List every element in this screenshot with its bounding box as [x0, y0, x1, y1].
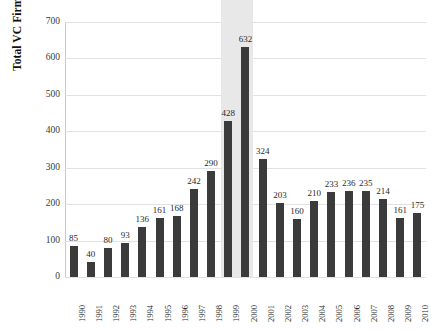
y-tick-label: 300	[20, 163, 60, 173]
bar[interactable]	[207, 171, 215, 277]
bar-slot: 85	[65, 22, 82, 277]
bar-value-label: 242	[187, 177, 201, 186]
bar-value-label: 85	[69, 234, 78, 243]
bar-slot: 324	[254, 22, 271, 277]
bar-value-label: 428	[222, 109, 236, 118]
bar[interactable]	[276, 203, 284, 277]
bar-slot: 203	[271, 22, 288, 277]
bar-value-label: 161	[393, 206, 407, 215]
bar[interactable]	[327, 192, 335, 277]
x-tick-label: 1997	[198, 305, 207, 322]
bar[interactable]	[293, 219, 301, 277]
bar-value-label: 80	[103, 236, 112, 245]
x-tick-label: 1995	[164, 305, 173, 322]
plot-area: 8540809313616116824229042863232420316021…	[65, 22, 426, 277]
bar-value-label: 233	[325, 180, 339, 189]
bar-value-label: 324	[256, 147, 270, 156]
x-tick-label: 2010	[421, 305, 430, 322]
bar-slot: 236	[340, 22, 357, 277]
x-tick-label: 1996	[181, 305, 190, 322]
bar-value-label: 40	[86, 250, 95, 259]
bars-layer: 8540809313616116824229042863232420316021…	[65, 22, 426, 277]
bar-slot: 210	[306, 22, 323, 277]
bar-value-label: 210	[308, 189, 322, 198]
bar-value-label: 161	[153, 206, 167, 215]
y-tick-label: 500	[20, 90, 60, 100]
bar[interactable]	[362, 191, 370, 277]
x-tick-label: 2008	[387, 305, 396, 322]
bar-slot: 175	[409, 22, 426, 277]
x-tick-label: 1992	[112, 305, 121, 322]
x-tick-label: 2002	[284, 305, 293, 322]
bar-slot: 235	[357, 22, 374, 277]
bar-value-label: 160	[290, 207, 304, 216]
bar-value-label: 136	[136, 215, 150, 224]
x-tick-label: 2000	[250, 305, 259, 322]
bar-value-label: 175	[411, 201, 425, 210]
bar-slot: 632	[237, 22, 254, 277]
bar-slot: 136	[134, 22, 151, 277]
x-tick-label: 2006	[353, 305, 362, 322]
bar-value-label: 236	[342, 179, 356, 188]
gridline	[65, 277, 426, 278]
x-tick-label: 2003	[301, 305, 310, 322]
bar[interactable]	[241, 47, 249, 277]
x-tick-label: 2001	[267, 305, 276, 322]
bar[interactable]	[259, 159, 267, 277]
bar[interactable]	[104, 248, 112, 277]
y-tick-label: 0	[20, 272, 60, 282]
x-tick-label: 1990	[78, 305, 87, 322]
bar[interactable]	[396, 218, 404, 277]
bar-slot: 160	[288, 22, 305, 277]
bar[interactable]	[345, 191, 353, 277]
bar[interactable]	[156, 218, 164, 277]
y-tick-label: 200	[20, 199, 60, 209]
bar-slot: 80	[99, 22, 116, 277]
y-tick-label: 400	[20, 126, 60, 136]
x-tick-label: 2005	[335, 305, 344, 322]
bar[interactable]	[70, 246, 78, 277]
bar-slot: 242	[185, 22, 202, 277]
bar[interactable]	[138, 227, 146, 277]
y-tick-label: 700	[20, 17, 60, 27]
bar-value-label: 235	[359, 179, 373, 188]
x-tick-label: 1991	[95, 305, 104, 322]
y-tick-label: 600	[20, 53, 60, 63]
bar-value-label: 93	[121, 231, 130, 240]
bar-value-label: 290	[204, 159, 218, 168]
x-tick-label: 2009	[404, 305, 413, 322]
bar-value-label: 168	[170, 204, 184, 213]
bar[interactable]	[173, 216, 181, 277]
bar[interactable]	[379, 199, 387, 277]
x-tick-label: 1998	[215, 305, 224, 322]
bar-slot: 428	[220, 22, 237, 277]
bar-value-label: 203	[273, 191, 287, 200]
bar[interactable]	[121, 243, 129, 277]
bar-slot: 161	[151, 22, 168, 277]
vc-firms-bar-chart: Total VC Firms 8540809313616116824229042…	[0, 0, 440, 330]
bar-slot: 168	[168, 22, 185, 277]
bar[interactable]	[413, 213, 421, 277]
bar-slot: 290	[203, 22, 220, 277]
bar-slot: 93	[117, 22, 134, 277]
bar-slot: 40	[82, 22, 99, 277]
x-tick-label: 1994	[146, 305, 155, 322]
bar[interactable]	[190, 189, 198, 277]
bar-slot: 161	[392, 22, 409, 277]
bar[interactable]	[310, 201, 318, 278]
bar[interactable]	[87, 262, 95, 277]
x-tick-label: 2007	[370, 305, 379, 322]
bar-slot: 233	[323, 22, 340, 277]
y-tick-label: 100	[20, 236, 60, 246]
bar-slot: 214	[374, 22, 391, 277]
bar-value-label: 214	[376, 187, 390, 196]
bar-value-label: 632	[239, 35, 253, 44]
x-tick-label: 1993	[129, 305, 138, 322]
x-tick-label: 1999	[232, 305, 241, 322]
bar[interactable]	[224, 121, 232, 277]
x-tick-label: 2004	[318, 305, 327, 322]
